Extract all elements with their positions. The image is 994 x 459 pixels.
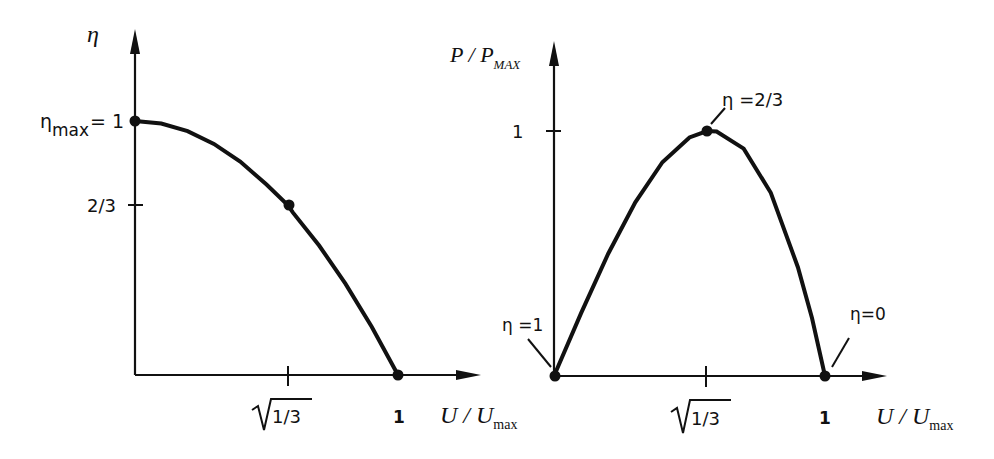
left-y-tick-label-2-3: 2/3	[87, 195, 116, 216]
right-point-peak	[702, 126, 713, 137]
right-x-tick-label-sqrt: 1/3	[671, 400, 731, 433]
left-x-tick-label-sqrt: 1/3	[252, 399, 312, 430]
power-curve	[554, 131, 825, 376]
left-point-eta-max	[130, 116, 141, 127]
power-chart: P / PMAX 1 η =2/3 η =1 η=0 1/3 1 U / Uma…	[449, 41, 953, 433]
right-y-axis-label: P / PMAX	[449, 42, 521, 72]
left-y-axis-label: η	[87, 21, 99, 47]
right-x-tick-label-1: 1	[819, 408, 831, 428]
left-point-mid	[284, 200, 295, 211]
right-point-origin	[550, 371, 561, 382]
right-point-end	[820, 371, 831, 382]
left-eta-max-label: ηmax= 1	[40, 110, 124, 140]
left-point-end	[393, 370, 404, 381]
peak-annotation-leader	[711, 108, 725, 124]
peak-annotation: η =2/3	[722, 89, 783, 110]
origin-annotation: η =1	[502, 315, 543, 335]
svg-text:1/3: 1/3	[691, 408, 720, 429]
efficiency-chart: η ηmax= 1 2/3 1/3 1 U / Umax	[40, 21, 517, 432]
end-annotation: η=0	[850, 304, 886, 324]
svg-text:1/3: 1/3	[272, 406, 301, 427]
right-y-axis-arrow-icon	[549, 41, 559, 66]
efficiency-curve	[135, 121, 398, 375]
right-x-axis-arrow-icon	[862, 371, 887, 381]
left-y-axis-arrow-icon	[130, 29, 140, 54]
end-annotation-leader	[832, 338, 849, 367]
left-x-tick-label-1: 1	[393, 407, 405, 427]
left-x-axis-arrow-icon	[456, 370, 481, 380]
right-x-axis-label: U / Umax	[876, 403, 953, 433]
left-x-axis-label: U / Umax	[440, 402, 517, 432]
origin-annotation-leader	[528, 339, 551, 367]
diagram-canvas: η ηmax= 1 2/3 1/3 1 U / Umax P /	[0, 0, 994, 459]
right-y-tick-label-1: 1	[512, 121, 523, 142]
